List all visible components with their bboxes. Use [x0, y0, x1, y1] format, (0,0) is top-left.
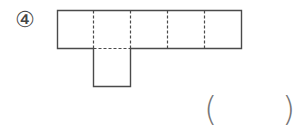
answer-paren-open: (	[204, 90, 217, 128]
net-diagram	[0, 0, 307, 134]
net-outline	[58, 11, 242, 87]
answer-paren-close: )	[282, 90, 295, 128]
fold-lines	[94, 11, 205, 49]
